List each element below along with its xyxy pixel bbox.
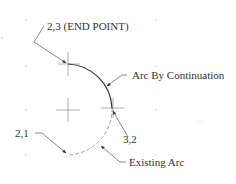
cross-point-3-2-marker <box>101 98 124 118</box>
label-arc-by-continuation: Arc By Continuation <box>132 69 225 81</box>
cross-center-marker <box>56 98 80 122</box>
arc-by-continuation <box>68 64 112 108</box>
grid-dots <box>1 19 201 156</box>
leader-existing-arc <box>101 146 126 162</box>
leader-point-2-1 <box>35 133 66 153</box>
label-point-2-1: 2,1 <box>15 127 29 139</box>
label-existing-arc: Existing Arc <box>129 156 184 168</box>
leader-arc-by-continuation <box>107 75 127 86</box>
label-end-point: 2,3 (END POINT) <box>47 20 129 33</box>
label-point-3-2: 3,2 <box>123 133 137 145</box>
arc-continuation-diagram: 2,3 (END POINT) Arc By Continuation 3,2 … <box>0 0 236 184</box>
existing-arc <box>68 108 112 155</box>
